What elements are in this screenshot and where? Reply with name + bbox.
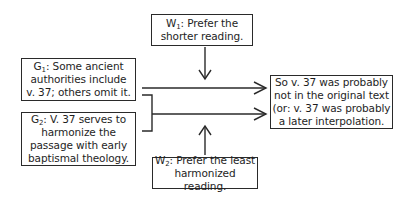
g2-text: G2: V. 37 serves to harmonize the passag…	[28, 113, 129, 165]
g1-text: G1: Some ancient authorities include v. …	[26, 60, 130, 99]
conclusion-text: So v. 37 was probably not in the origina…	[273, 76, 391, 128]
ground-g2-box: G2: V. 37 serves to harmonize the passag…	[21, 112, 136, 166]
w2-text: W2: Prefer the least harmonized reading.	[153, 154, 257, 193]
warrant-w1-box: W1: Prefer the shorter reading.	[151, 14, 253, 46]
conclusion-box: So v. 37 was probably not in the origina…	[270, 75, 393, 129]
g1-g2-bracket	[142, 95, 152, 131]
warrant-w2-box: W2: Prefer the least harmonized reading.	[152, 157, 258, 189]
ground-g1-box: G1: Some ancient authorities include v. …	[21, 58, 136, 101]
w1-text: W1: Prefer the shorter reading.	[161, 17, 244, 43]
